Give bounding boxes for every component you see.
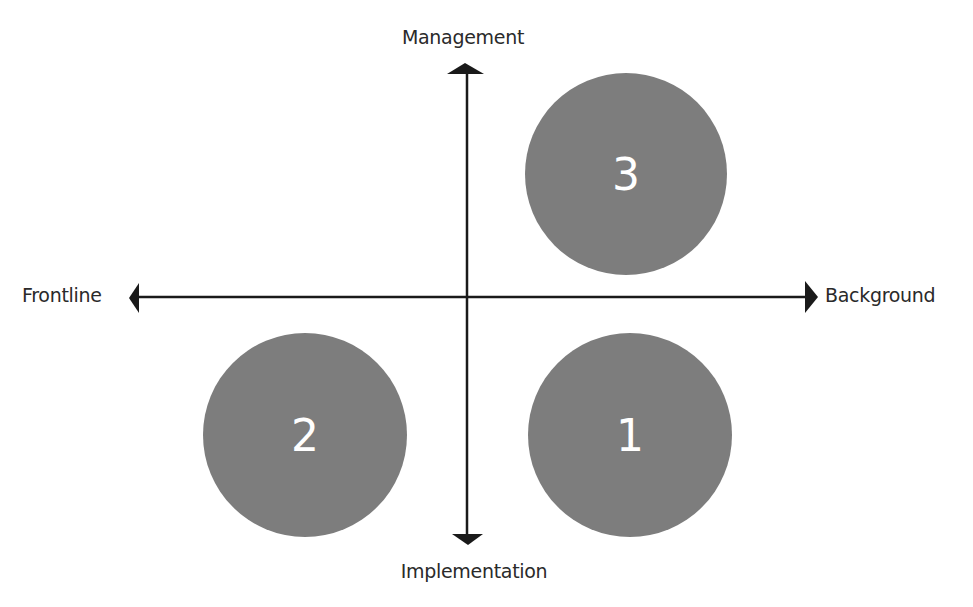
circle-1-label: 1 xyxy=(616,410,644,461)
arrow-down-icon xyxy=(452,534,483,545)
circle-3: 3 xyxy=(525,73,727,275)
quadrant-diagram: Management Implementation Frontline Back… xyxy=(0,0,973,607)
circle-2-label: 2 xyxy=(291,410,319,461)
axis-label-management: Management xyxy=(398,26,528,48)
axis-label-background: Background xyxy=(825,284,950,306)
circle-1: 1 xyxy=(528,333,732,537)
axis-label-frontline: Frontline xyxy=(22,284,122,306)
arrow-right-icon xyxy=(805,281,818,313)
arrow-left-icon xyxy=(129,283,139,313)
circle-2: 2 xyxy=(203,333,407,537)
circle-3-label: 3 xyxy=(612,149,640,200)
axis-label-implementation: Implementation xyxy=(390,560,558,582)
arrow-up-icon xyxy=(447,63,484,74)
